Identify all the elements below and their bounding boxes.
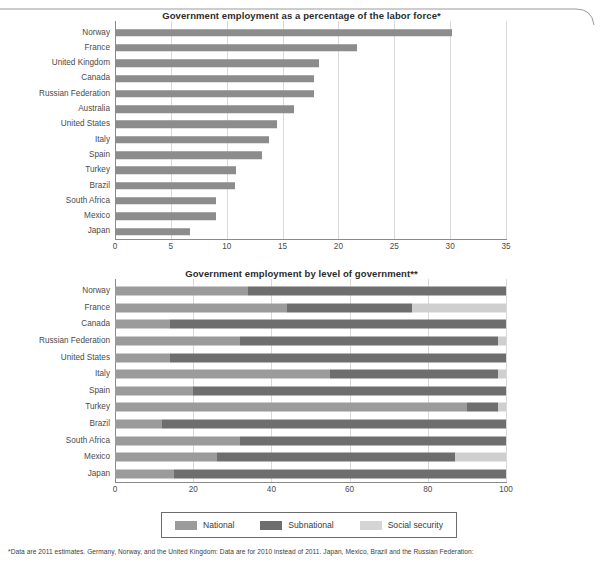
chart1-bar-track — [115, 117, 506, 132]
chart2-category-label: Mexico — [0, 453, 115, 461]
chart2-segment-national — [115, 386, 193, 395]
chart1-bar-track — [115, 209, 506, 224]
chart1-category-label: United States — [0, 120, 115, 128]
chart1-bar — [115, 59, 319, 67]
chart2-segment-national — [115, 436, 240, 445]
chart2-category-label: Russian Federation — [0, 337, 115, 345]
chart1-bar-track — [115, 101, 506, 116]
chart1-category-label: Australia — [0, 105, 115, 113]
chart1-bar-row: Mexico — [0, 209, 603, 224]
chart1-bar-track — [115, 132, 506, 147]
chart2-segment-national — [115, 353, 170, 362]
chart1-category-label: Russian Federation — [0, 90, 115, 98]
chart2-segment-social — [498, 370, 506, 379]
chart2-bar-track — [115, 316, 506, 333]
chart1-bar-track — [115, 40, 506, 55]
chart1-bar-row: Norway — [0, 25, 603, 40]
chart1-category-label: Italy — [0, 136, 115, 144]
chart1-bar — [115, 228, 190, 236]
chart1-bar — [115, 151, 262, 159]
footnote-text: *Data are 2011 estimates. Germany, Norwa… — [8, 548, 598, 557]
chart2-segment-subnational — [174, 469, 506, 478]
chart2-bar-track — [115, 366, 506, 383]
chart1-category-label: Mexico — [0, 212, 115, 220]
legend-swatch — [175, 521, 197, 530]
x-tick-label: 100 — [499, 485, 513, 494]
chart1-bar-row: France — [0, 40, 603, 55]
chart2-bar-row: Italy — [0, 366, 603, 383]
chart2-segment-subnational — [248, 287, 506, 296]
chart1-title: Government employment as a percentage of… — [0, 10, 603, 21]
chart2-segment-national — [115, 469, 174, 478]
chart1-bar — [115, 75, 314, 83]
chart2-category-label: Canada — [0, 320, 115, 328]
chart1-category-label: Canada — [0, 74, 115, 82]
chart2-segment-national — [115, 453, 217, 462]
chart1-bar — [115, 29, 452, 37]
legend-label: Subnational — [288, 520, 333, 530]
chart2-segment-subnational — [170, 320, 506, 329]
chart1-bar — [115, 197, 216, 205]
legend-label: Social security — [388, 520, 443, 530]
chart1-bar-track — [115, 71, 506, 86]
chart2-bar-track — [115, 416, 506, 433]
chart2-category-label: South Africa — [0, 437, 115, 445]
chart1-bar-row: Japan — [0, 224, 603, 239]
legend-item: Subnational — [260, 520, 333, 530]
chart1-bar-track — [115, 56, 506, 71]
chart2-title: Government employment by level of govern… — [0, 268, 603, 279]
legend-swatch — [260, 521, 282, 530]
chart1-x-ticks: 05101520253035 — [115, 239, 506, 253]
chart2-rows: NorwayFranceCanadaRussian FederationUnit… — [0, 279, 603, 482]
chart2-bar-row: Brazil — [0, 416, 603, 433]
legend-item: National — [175, 520, 235, 530]
chart2-category-label: Brazil — [0, 420, 115, 428]
chart-legend: NationalSubnationalSocial security — [161, 512, 457, 538]
x-tick-label: 0 — [113, 485, 118, 494]
chart1-bar-track — [115, 163, 506, 178]
chart2-bar-track — [115, 449, 506, 466]
x-tick-label: 25 — [390, 242, 399, 251]
chart1-bar-track — [115, 178, 506, 193]
chart2-segment-subnational — [193, 386, 506, 395]
chart2-segment-subnational — [287, 303, 412, 312]
x-tick-label: 15 — [278, 242, 287, 251]
x-tick-label: 10 — [222, 242, 231, 251]
chart2-bar-track — [115, 300, 506, 317]
chart2-bar-track — [115, 432, 506, 449]
chart1-bar — [115, 167, 236, 175]
chart1-bar — [115, 121, 277, 129]
chart1-bar — [115, 212, 216, 220]
x-tick-label: 60 — [345, 485, 354, 494]
chart2-segment-subnational — [467, 403, 498, 412]
chart2-bar-row: Canada — [0, 316, 603, 333]
chart1-bar-track — [115, 224, 506, 239]
x-tick-label: 80 — [423, 485, 432, 494]
chart2-segment-national — [115, 337, 240, 346]
chart2-bar-row: Mexico — [0, 449, 603, 466]
chart2-segment-subnational — [240, 337, 498, 346]
chart2-category-label: Spain — [0, 387, 115, 395]
chart1-bar-row: Italy — [0, 132, 603, 147]
chart2-segment-subnational — [217, 453, 456, 462]
chart2-segment-subnational — [330, 370, 498, 379]
chart1-bar-row: Russian Federation — [0, 86, 603, 101]
chart2-bar-track — [115, 466, 506, 483]
chart2-category-label: United States — [0, 354, 115, 362]
chart2-bar-row: France — [0, 300, 603, 317]
x-tick-label: 35 — [501, 242, 510, 251]
chart1-bar-row: Canada — [0, 71, 603, 86]
chart2-segment-national — [115, 320, 170, 329]
chart1-bar-row: South Africa — [0, 193, 603, 208]
chart2-bar-row: Turkey — [0, 399, 603, 416]
legend-item: Social security — [360, 520, 443, 530]
figure-page: Government employment as a percentage of… — [0, 0, 603, 567]
legend-label: National — [203, 520, 235, 530]
chart1-category-label: United Kingdom — [0, 59, 115, 67]
chart2-bar-row: Japan — [0, 466, 603, 483]
chart1-bar-row: United States — [0, 117, 603, 132]
chart2-bar-row: Spain — [0, 383, 603, 400]
chart2-plot: NorwayFranceCanadaRussian FederationUnit… — [0, 279, 603, 496]
chart1-bar-row: Spain — [0, 147, 603, 162]
x-tick-label: 20 — [334, 242, 343, 251]
